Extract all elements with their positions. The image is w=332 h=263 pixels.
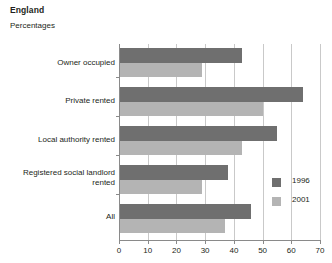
bar-all-1996 — [119, 204, 251, 219]
chart-legend: 1996 2001 — [272, 175, 327, 213]
chart-subtitle: Percentages — [10, 21, 55, 30]
xtick-mark-0 — [119, 241, 120, 244]
legend-item-2001: 2001 — [272, 194, 327, 213]
category-label-owner-occupied: Owner occupied — [3, 58, 115, 68]
xtick-mark-30 — [205, 241, 206, 244]
chart-figure: England Percentages Owner occupied Priva… — [0, 0, 332, 263]
category-label-registered-social-landlord-rented: Registered social landlord rented — [3, 168, 115, 187]
bar-local-authority-rented-1996 — [119, 126, 277, 141]
xtick-mark-10 — [148, 241, 149, 244]
y-axis-line — [119, 44, 120, 241]
category-label-local-authority-rented: Local authority rented — [3, 135, 115, 145]
xtick-mark-70 — [320, 241, 321, 244]
gridline-50 — [263, 44, 264, 240]
xtick-mark-60 — [291, 241, 292, 244]
xtick-label-10: 10 — [136, 246, 160, 255]
category-label-all: All — [3, 212, 115, 222]
xtick-label-30: 30 — [193, 246, 217, 255]
xtick-mark-20 — [176, 241, 177, 244]
xtick-label-20: 20 — [164, 246, 188, 255]
bar-owner-occupied-2001 — [119, 63, 202, 77]
chart-title: England — [10, 5, 44, 15]
xtick-label-60: 60 — [279, 246, 303, 255]
category-label-line-1: Registered social landlord — [23, 168, 115, 177]
bar-all-2001 — [119, 219, 225, 233]
bar-private-rented-1996 — [119, 87, 303, 102]
xtick-label-70: 70 — [308, 246, 332, 255]
category-label-line-2: rented — [92, 178, 115, 187]
xtick-mark-40 — [234, 241, 235, 244]
bar-local-authority-rented-2001 — [119, 141, 242, 155]
legend-item-1996: 1996 — [272, 175, 327, 194]
category-label-private-rented: Private rented — [3, 96, 115, 106]
bar-private-rented-2001 — [119, 102, 263, 116]
legend-label-2001: 2001 — [292, 195, 310, 204]
xtick-label-40: 40 — [222, 246, 246, 255]
bar-registered-social-landlord-rented-1996 — [119, 165, 228, 180]
bar-owner-occupied-1996 — [119, 48, 242, 63]
category-labels: Owner occupied Private rented Local auth… — [0, 44, 115, 240]
xtick-mark-50 — [263, 241, 264, 244]
xtick-label-0: 0 — [107, 246, 131, 255]
legend-label-1996: 1996 — [292, 176, 310, 185]
bar-registered-social-landlord-rented-2001 — [119, 180, 202, 194]
legend-swatch-2001 — [272, 197, 281, 206]
xtick-label-50: 50 — [251, 246, 275, 255]
legend-swatch-1996 — [272, 178, 281, 187]
